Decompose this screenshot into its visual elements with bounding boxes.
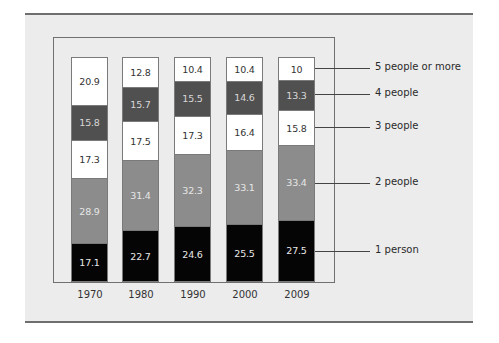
legend-leader-line: [315, 183, 370, 184]
legend-label: 4 people: [375, 87, 418, 98]
segment-1-person-1990: 24.6: [175, 226, 210, 281]
segment-3-people-2009: 15.8: [279, 110, 314, 145]
segment-5-people-or-more-1970: 20.9: [72, 58, 107, 105]
year-label-2000: 2000: [225, 289, 265, 300]
x-axis-line: [53, 282, 335, 283]
legend-leader-line: [315, 94, 370, 95]
segment-3-people-1990: 17.3: [175, 116, 210, 155]
segment-2-people-1970: 28.9: [72, 178, 107, 242]
segment-4-people-2009: 13.3: [279, 80, 314, 110]
bar-2009: 1013.315.833.427.5: [278, 57, 315, 282]
year-label-1970: 1970: [70, 289, 110, 300]
legend-label: 2 people: [375, 176, 418, 187]
segment-4-people-1980: 15.7: [123, 87, 158, 122]
segment-2-people-1990: 32.3: [175, 154, 210, 226]
segment-5-people-or-more-1980: 12.8: [123, 58, 158, 87]
segment-5-people-or-more-2000: 10.4: [227, 58, 262, 81]
bar-1970: 20.915.817.328.917.1: [71, 57, 108, 282]
segment-3-people-1970: 17.3: [72, 140, 107, 179]
segment-5-people-or-more-2009: 10: [279, 58, 314, 80]
segment-1-person-2000: 25.5: [227, 224, 262, 281]
bar-1990: 10.415.517.332.324.6: [174, 57, 211, 282]
legend-label: 5 people or more: [375, 61, 461, 72]
bar-2000: 10.414.616.433.125.5: [226, 57, 263, 282]
segment-3-people-2000: 16.4: [227, 114, 262, 151]
segment-4-people-2000: 14.6: [227, 81, 262, 114]
year-label-1980: 1980: [121, 289, 161, 300]
segment-3-people-1980: 17.5: [123, 121, 158, 160]
year-label-2009: 2009: [277, 289, 317, 300]
segment-1-person-1980: 22.7: [123, 230, 158, 281]
segment-1-person-1970: 17.1: [72, 243, 107, 281]
segment-4-people-1990: 15.5: [175, 81, 210, 116]
bar-1980: 12.815.717.531.422.7: [122, 57, 159, 282]
legend-leader-line: [315, 127, 370, 128]
segment-2-people-2000: 33.1: [227, 150, 262, 224]
legend-label: 3 people: [375, 120, 418, 131]
segment-5-people-or-more-1990: 10.4: [175, 58, 210, 81]
segment-4-people-1970: 15.8: [72, 105, 107, 140]
segment-1-person-2009: 27.5: [279, 220, 314, 281]
legend-leader-line: [315, 68, 370, 69]
legend-leader-line: [315, 251, 370, 252]
legend-label: 1 person: [375, 244, 419, 255]
segment-2-people-2009: 33.4: [279, 145, 314, 219]
year-label-1990: 1990: [173, 289, 213, 300]
segment-2-people-1980: 31.4: [123, 160, 158, 230]
